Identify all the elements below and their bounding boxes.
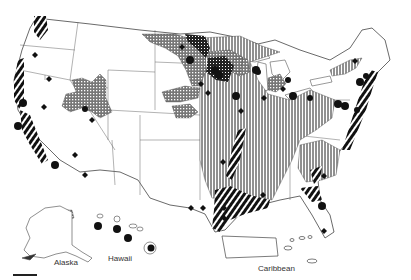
alaska-label: Alaska (54, 258, 78, 267)
caribbean-inset (222, 236, 317, 264)
hawaii-label: Hawaii (108, 254, 132, 263)
caribbean-label: Caribbean (258, 264, 295, 273)
hawaii-inset (97, 214, 156, 254)
us-thematic-map (0, 0, 411, 280)
legend-bar (13, 274, 37, 276)
alaska-inset (22, 206, 92, 262)
